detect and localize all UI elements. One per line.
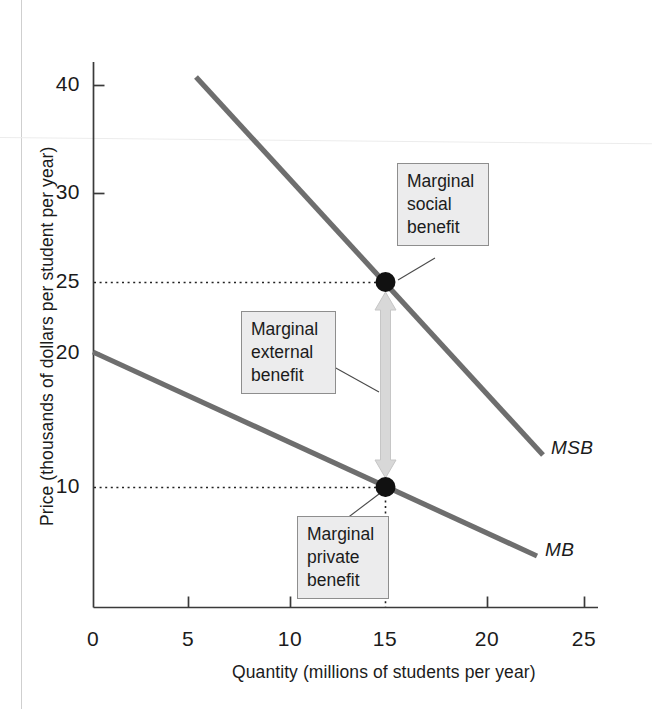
msb-curve (196, 77, 543, 455)
chart-figure: 40 30 25 20 10 0 5 10 15 20 25 Price (th… (0, 0, 652, 709)
msb-point-marker (376, 272, 396, 292)
x-tick-label-15: 15 (365, 627, 405, 651)
x-tick-label-10: 10 (270, 627, 310, 651)
y-axis-title: Price (thousands of dollars per student … (37, 147, 58, 526)
x-tick-label-25: 25 (564, 627, 604, 651)
marginal-external-benefit-arrow (375, 292, 396, 478)
x-tick-label-0: 0 (73, 627, 113, 651)
x-tick-label-20: 20 (467, 627, 507, 651)
callout-marginal-private-benefit: Marginal private benefit (297, 516, 389, 599)
leader-external (334, 367, 379, 392)
curve-label-mb: MB (545, 539, 574, 561)
callout-marginal-external-benefit: Marginal external benefit (241, 311, 336, 394)
callout-marginal-social-benefit: Marginal social benefit (397, 163, 489, 246)
curve-label-msb: MSB (551, 437, 593, 459)
x-tick-label-5: 5 (168, 627, 208, 651)
leader-social (398, 258, 435, 280)
x-axis-title: Quantity (millions of students per year) (232, 662, 536, 683)
y-tick-label-40: 40 (42, 72, 80, 96)
